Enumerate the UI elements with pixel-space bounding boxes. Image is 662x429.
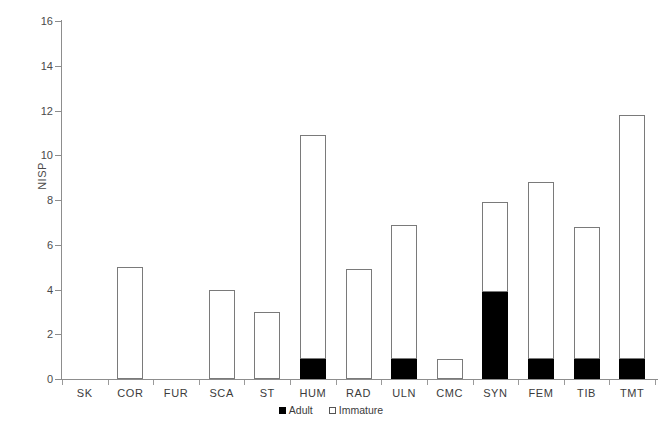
legend-label-immature: Immature	[339, 404, 383, 416]
y-axis-tick	[55, 290, 61, 291]
y-axis-tick-label: 6	[0, 245, 53, 246]
legend-item-immature: Immature	[329, 404, 383, 416]
x-axis-tick	[609, 380, 610, 385]
bar-segment-adult	[482, 292, 508, 379]
x-axis-tick	[427, 380, 428, 385]
y-axis-tick	[55, 334, 61, 335]
bar-segment-immature	[300, 135, 326, 359]
x-axis-tick	[153, 380, 154, 385]
y-axis-tick-label: 0	[0, 379, 53, 380]
x-axis-label-tmt: TMT	[602, 387, 662, 399]
x-axis-tick	[564, 380, 565, 385]
x-axis-tick	[655, 380, 656, 385]
bar-tmt	[619, 115, 645, 379]
x-axis-line	[61, 379, 658, 380]
y-axis-tick-label: 4	[0, 290, 53, 291]
bar-segment-immature	[528, 182, 554, 359]
y-axis-tick-label: 2	[0, 334, 53, 335]
y-axis-tick-label: 8	[0, 200, 53, 201]
x-axis-tick	[62, 380, 63, 385]
bar-uln	[391, 225, 417, 379]
bar-segment-immature	[391, 225, 417, 359]
x-axis-tick	[518, 380, 519, 385]
x-axis-tick	[473, 380, 474, 385]
y-axis-tick-label: 14	[0, 66, 53, 67]
bar-segment-adult	[619, 359, 645, 379]
bar-segment-adult	[528, 359, 554, 379]
y-axis-tick-label: 10	[0, 155, 53, 156]
bar-segment-adult	[574, 359, 600, 379]
y-axis-tick	[55, 21, 61, 22]
y-axis-tick-label: 12	[0, 111, 53, 112]
bar-segment-immature	[209, 290, 235, 380]
x-axis-tick	[108, 380, 109, 385]
y-axis-tick	[55, 245, 61, 246]
bar-cmc	[437, 359, 463, 379]
y-axis-tick	[55, 155, 61, 156]
bar-st	[254, 312, 280, 379]
bar-segment-immature	[619, 115, 645, 359]
bar-tib	[574, 227, 600, 379]
bar-segment-adult	[391, 359, 417, 379]
bar-syn	[482, 202, 508, 379]
nisp-bar-chart: NISP 0246810121416 SKCORFURSCASTHUMRADUL…	[0, 0, 662, 429]
bar-sca	[209, 290, 235, 380]
y-axis-tick-label: 16	[0, 21, 53, 22]
x-axis-tick	[381, 380, 382, 385]
x-axis-tick	[244, 380, 245, 385]
x-axis-tick	[336, 380, 337, 385]
legend-label-adult: Adult	[289, 404, 313, 416]
bar-rad	[346, 269, 372, 379]
bar-segment-adult	[300, 359, 326, 379]
filled-square-icon	[279, 407, 286, 414]
legend-item-adult: Adult	[279, 404, 313, 416]
chart-legend: Adult Immature	[0, 404, 662, 416]
bar-segment-immature	[482, 202, 508, 292]
x-axis-tick	[290, 380, 291, 385]
bar-segment-immature	[437, 359, 463, 379]
y-axis-tick	[55, 200, 61, 201]
open-square-icon	[329, 407, 336, 414]
bar-segment-immature	[346, 269, 372, 379]
y-axis-tick	[55, 379, 61, 380]
bar-segment-immature	[574, 227, 600, 359]
bar-cor	[117, 267, 143, 379]
bar-fem	[528, 182, 554, 379]
plot-area	[62, 21, 655, 379]
bar-segment-immature	[254, 312, 280, 379]
y-axis-tick	[55, 111, 61, 112]
x-axis-tick	[199, 380, 200, 385]
bar-segment-immature	[117, 267, 143, 379]
y-axis-tick	[55, 66, 61, 67]
bar-hum	[300, 135, 326, 379]
